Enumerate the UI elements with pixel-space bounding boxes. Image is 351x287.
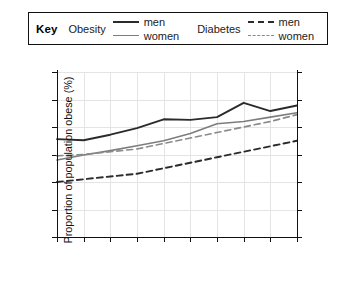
legend-group-diabetes: Diabetes men women [197, 15, 314, 43]
legend-item-label: women [279, 30, 314, 42]
legend-rows-obesity: men women [113, 15, 179, 43]
legend-item-label: women [144, 30, 179, 42]
legend-item-obesity-women: women [113, 29, 179, 43]
legend-item-obesity-men: men [113, 15, 179, 29]
right-axis-spine [297, 70, 298, 239]
legend-item-label: men [144, 16, 165, 28]
dashed-line-swatch-icon [248, 31, 274, 40]
chart-figure: Key Obesity men women Diabetes [0, 0, 351, 287]
legend-group-title-obesity: Obesity [68, 23, 105, 35]
legend-group-title-diabetes: Diabetes [197, 23, 240, 35]
line-swatch-icon [113, 17, 139, 26]
legend-rows-diabetes: men women [248, 15, 314, 43]
legend-key-label: Key [36, 23, 57, 35]
series-lines [57, 72, 297, 237]
y-axis-title: Proportion of population obese (%) [62, 45, 74, 275]
series-line [57, 141, 297, 182]
chart-legend: Key Obesity men women Diabetes [28, 12, 328, 45]
legend-inner: Key Obesity men women Diabetes [29, 13, 327, 44]
legend-group-obesity: Obesity men women [68, 15, 179, 43]
series-line [57, 115, 297, 156]
legend-item-diabetes-women: women [248, 29, 314, 43]
series-line [57, 103, 297, 140]
legend-item-diabetes-men: men [248, 15, 314, 29]
legend-item-label: men [279, 16, 300, 28]
bottom-axis-spine [57, 237, 298, 238]
dashed-line-swatch-icon [248, 17, 274, 26]
line-swatch-icon [113, 31, 139, 40]
plot-area: 051015202530 0123456 1994199619982000200… [57, 72, 297, 237]
left-axis-spine [57, 70, 58, 239]
